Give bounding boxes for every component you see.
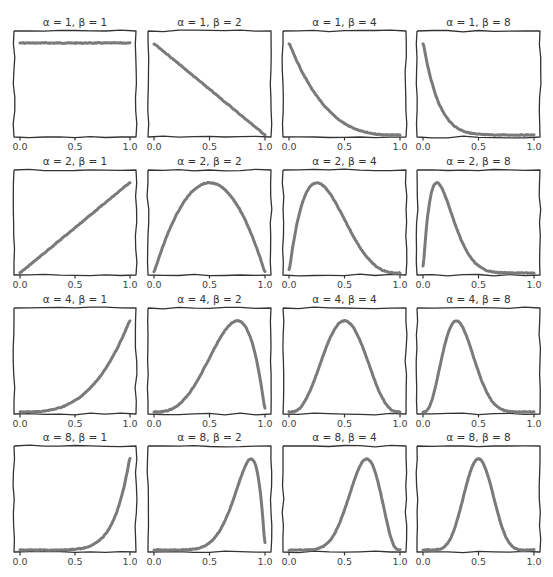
x-tick-label: 0.0	[415, 418, 430, 429]
x-tick-label: 0.5	[67, 279, 82, 290]
x-tick-label: 1.0	[392, 418, 407, 429]
subplot-panel	[416, 170, 540, 279]
x-tick-label: 0.0	[146, 556, 161, 567]
x-tick-label: 0.0	[146, 141, 161, 152]
axes-frame	[13, 169, 137, 275]
x-tick-label: 0.0	[12, 279, 27, 290]
x-tick-label: 0.5	[67, 141, 82, 152]
x-tick-label: 0.5	[337, 141, 352, 152]
subplot-title: α = 4, β = 8	[446, 293, 511, 305]
x-tick-label: 1.0	[526, 418, 541, 429]
x-tick-label: 1.0	[257, 141, 272, 152]
x-tick-label: 0.0	[146, 279, 161, 290]
axes-frame	[147, 169, 272, 275]
x-tick-label: 0.5	[471, 556, 486, 567]
subplot-title: α = 2, β = 8	[446, 155, 511, 167]
beta-pdf-curve	[20, 43, 130, 44]
x-tick-label: 1.0	[526, 141, 541, 152]
x-tick-label: 0.0	[415, 556, 430, 567]
subplot-title: α = 2, β = 4	[312, 155, 377, 167]
x-tick-label: 0.5	[337, 556, 352, 567]
x-tick-label: 1.0	[392, 141, 407, 152]
x-tick-label: 0.5	[337, 279, 352, 290]
x-tick-label: 0.0	[281, 279, 296, 290]
subplot-panel	[282, 169, 407, 278]
axes-frame	[416, 31, 541, 138]
subplot-title: α = 4, β = 4	[312, 293, 377, 305]
axes-frame	[283, 307, 407, 415]
x-tick-label: 1.0	[257, 279, 272, 290]
x-tick-label: 0.5	[471, 279, 486, 290]
subplot-title: α = 1, β = 1	[43, 16, 108, 28]
beta-distribution-grid: 0.00.51.0α = 1, β = 10.00.51.0α = 1, β =…	[0, 0, 553, 577]
subplot-panel	[416, 31, 541, 141]
axes-frame	[282, 445, 407, 552]
x-tick-label: 0.0	[12, 556, 27, 567]
x-tick-label: 1.0	[122, 418, 137, 429]
subplot-panel	[147, 307, 271, 417]
subplot-title: α = 8, β = 1	[43, 431, 108, 443]
x-tick-label: 0.5	[202, 141, 217, 152]
x-tick-label: 0.5	[67, 556, 82, 567]
x-tick-label: 1.0	[122, 141, 137, 152]
subplot-title: α = 2, β = 2	[177, 155, 242, 167]
subplot-panel	[282, 445, 407, 555]
x-tick-label: 0.5	[202, 556, 217, 567]
x-tick-label: 0.5	[202, 279, 217, 290]
x-tick-label: 0.5	[337, 418, 352, 429]
x-tick-label: 1.0	[392, 556, 407, 567]
axes-frame	[416, 446, 541, 553]
x-tick-label: 0.0	[281, 141, 296, 152]
subplot-title: α = 8, β = 4	[312, 431, 377, 443]
subplot-panel	[147, 446, 272, 556]
subplot-panel	[13, 30, 137, 140]
x-tick-label: 1.0	[526, 279, 541, 290]
x-tick-label: 0.5	[202, 418, 217, 429]
subplot-panel	[13, 445, 137, 555]
x-tick-label: 0.0	[12, 418, 27, 429]
subplot-title: α = 1, β = 4	[312, 16, 377, 28]
subplot-panel	[282, 30, 407, 140]
x-tick-label: 0.0	[146, 418, 161, 429]
subplot-title: α = 2, β = 1	[43, 155, 108, 167]
subplot-title: α = 8, β = 8	[446, 431, 511, 443]
subplot-panel	[13, 307, 137, 417]
x-tick-label: 0.0	[281, 418, 296, 429]
x-tick-label: 0.5	[471, 418, 486, 429]
subplot-panel	[416, 446, 541, 556]
x-tick-label: 0.0	[415, 141, 430, 152]
x-tick-label: 0.5	[471, 141, 486, 152]
x-tick-label: 1.0	[257, 418, 272, 429]
x-tick-label: 1.0	[122, 279, 137, 290]
axes-frame	[13, 445, 137, 552]
x-tick-label: 0.0	[12, 141, 27, 152]
x-tick-label: 1.0	[257, 556, 272, 567]
x-tick-label: 1.0	[122, 556, 137, 567]
subplot-panel	[283, 307, 407, 417]
x-tick-label: 0.5	[67, 418, 82, 429]
axes-frame	[416, 307, 540, 415]
subplot-panel	[147, 169, 272, 278]
axes-frame	[13, 30, 137, 137]
axes-frame	[148, 30, 272, 137]
x-tick-label: 0.0	[415, 279, 430, 290]
subplot-title: α = 8, β = 2	[177, 431, 242, 443]
subplot-title: α = 1, β = 8	[446, 16, 511, 28]
subplot-panel	[416, 307, 540, 417]
x-tick-label: 1.0	[526, 556, 541, 567]
subplot-title: α = 4, β = 1	[43, 293, 108, 305]
subplot-title: α = 1, β = 2	[177, 16, 242, 28]
x-tick-label: 0.0	[281, 556, 296, 567]
x-tick-label: 1.0	[392, 279, 407, 290]
subplot-panel	[13, 169, 137, 278]
subplot-title: α = 4, β = 2	[177, 293, 242, 305]
subplot-panel	[148, 30, 272, 140]
